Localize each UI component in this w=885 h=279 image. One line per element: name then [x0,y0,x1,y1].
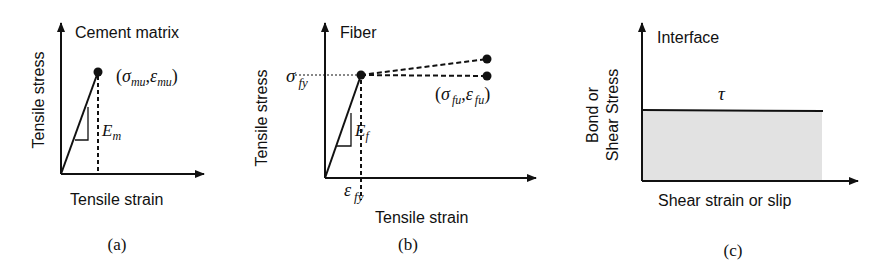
elastic-line [61,72,98,174]
ultimate-point-hardening [483,55,492,64]
panel-a-title: Cement matrix [75,24,179,41]
constitutive-models-figure: Cement matrix Tensile stress Tensile str… [0,0,885,279]
point-label-mu: (σmu,εmu) [116,66,178,89]
panel-c-caption: (c) [724,241,743,260]
yield-point [357,71,366,80]
ultimate-point-plastic [483,72,492,81]
panel-c-ylabel-line1: Bond or [584,86,601,143]
panel-c-xlabel: Shear strain or slip [658,192,791,209]
shear-stress-area [643,110,822,180]
yield-strain-label: εfy [344,180,364,204]
slope-triangle [75,107,88,140]
panel-c-ylabel-line2: Shear Stress [604,69,621,161]
panel-a-caption: (a) [108,235,127,254]
yield-stress-label: σfy [286,65,308,90]
panel-b-fiber: Fiber Tensile stress Tensile strain σfy … [253,23,536,254]
panel-a-ylabel: Tensile stress [30,52,47,149]
panel-c-title: Interface [657,29,719,46]
plastic-branch [361,75,487,76]
panel-a-cement-matrix: Cement matrix Tensile stress Tensile str… [30,23,204,254]
constant-shear-line [642,110,823,111]
panel-b-title: Fiber [340,24,377,41]
panel-b-caption: (b) [398,235,418,254]
panel-a-xlabel: Tensile strain [70,191,163,208]
panel-c-interface: Interface Bond or Shear Stress Shear str… [584,23,858,260]
tau-label: τ [718,83,726,104]
modulus-label-Em: Em [101,121,121,143]
modulus-label-Ef: Ef [354,121,370,143]
point-label-fu: (σfu,εfu) [435,84,490,107]
slope-triangle [337,113,351,146]
ultimate-point [94,68,103,77]
hardening-branch [361,59,487,75]
panel-b-xlabel: Tensile strain [375,209,468,226]
panel-b-ylabel: Tensile stress [253,70,270,167]
